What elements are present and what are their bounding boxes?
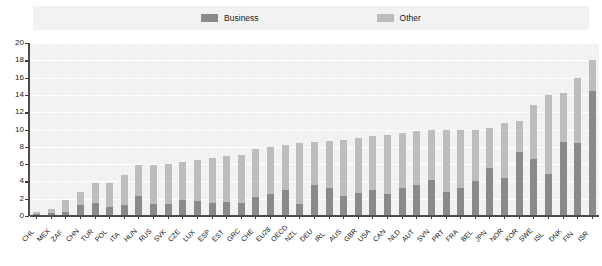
x-tick-mark [387,216,388,219]
bar-segment-business [472,181,479,216]
bar-segment-business [486,168,493,216]
y-tick-mark [25,60,29,61]
x-tick-mark [80,216,81,219]
bar-segment-business [179,200,186,216]
x-tick-mark [431,216,432,219]
bar-segment-other [135,165,142,196]
bar-column[interactable] [91,43,100,216]
bar-column[interactable] [500,43,509,216]
x-tick-mark [270,216,271,219]
bar-segment-business [589,91,596,216]
x-tick-mark [51,216,52,219]
bar-segment-business [399,188,406,216]
bar-column[interactable] [310,43,319,216]
bar-segment-business [530,159,537,216]
y-tick-mark [25,199,29,200]
x-tick-mark [460,216,461,219]
x-tick-mark [416,216,417,219]
x-tick-mark [138,216,139,219]
y-tick-mark [25,112,29,113]
bar-segment-business [252,197,259,216]
bar-segment-other [516,121,523,152]
plot-wrapper: 02468101214161820 [0,38,602,220]
bar-column[interactable] [120,43,129,216]
bar-segment-business [223,202,230,216]
bar-segment-other [77,192,84,205]
x-tick-mark [372,216,373,219]
bar-segment-other [326,141,333,189]
y-tick-label: 12 [15,108,24,116]
bar-segment-other [413,131,420,185]
bar-column[interactable] [251,43,260,216]
bar-column[interactable] [456,43,465,216]
bar-column[interactable] [47,43,56,216]
bar-column[interactable] [178,43,187,216]
legend-swatch-business-icon [201,14,218,22]
bar-column[interactable] [32,43,41,216]
y-axis-labels: 02468101214161820 [0,38,24,215]
bar-segment-other [472,130,479,181]
bar-column[interactable] [559,43,568,216]
bar-column[interactable] [573,43,582,216]
legend-item-business[interactable]: Business [201,14,259,23]
bar-column[interactable] [383,43,392,216]
y-tick-mark [25,181,29,182]
bar-segment-other [589,60,596,90]
bar-column[interactable] [76,43,85,216]
bar-column[interactable] [105,43,114,216]
bar-segment-other [311,142,318,185]
bar-segment-other [530,105,537,159]
bar-column[interactable] [281,43,290,216]
bar-column[interactable] [193,43,202,216]
bar-column[interactable] [485,43,494,216]
bar-segment-other [355,138,362,192]
bar-column[interactable] [442,43,451,216]
bar-column[interactable] [222,43,231,216]
bar-column[interactable] [237,43,246,216]
x-tick-mark [36,216,37,219]
y-tick-mark [25,78,29,79]
bar-segment-other [106,183,113,206]
bar-column[interactable] [295,43,304,216]
y-tick-label: 0 [20,212,24,220]
bar-column[interactable] [588,43,597,216]
bar-column[interactable] [544,43,553,216]
x-tick-mark [285,216,286,219]
bar-column[interactable] [354,43,363,216]
y-tick-label: 8 [20,143,24,151]
bar-column[interactable] [515,43,524,216]
x-tick-mark [548,216,549,219]
bar-column[interactable] [266,43,275,216]
legend-item-other[interactable]: Other [377,14,421,23]
bar-column[interactable] [471,43,480,216]
bar-segment-business [501,178,508,216]
bar-segment-other [282,145,289,190]
bar-column[interactable] [134,43,143,216]
x-label-cell: ISR [588,216,597,266]
bar-column[interactable] [529,43,538,216]
x-tick-label: CHL [20,228,35,243]
bar-column[interactable] [164,43,173,216]
x-axis-labels: CHLMEXZAFCHNTURPOLITAHUNRUSSVKCZELUXESPE… [30,216,599,266]
bar-segment-other [179,162,186,199]
chart-legend: Business Other [33,6,589,30]
bar-column[interactable] [208,43,217,216]
bar-segment-business [369,190,376,216]
bar-column[interactable] [339,43,348,216]
bar-column[interactable] [427,43,436,216]
bar-column[interactable] [325,43,334,216]
bar-column[interactable] [368,43,377,216]
bar-column[interactable] [61,43,70,216]
y-tick-label: 2 [20,195,24,203]
y-tick-mark [25,95,29,96]
x-tick-mark [329,216,330,219]
bar-segment-other [296,143,303,204]
x-tick-mark [563,216,564,219]
chart-container: Business Other 02468101214161820 CHLMEXZ… [0,0,602,266]
bar-column[interactable] [398,43,407,216]
legend-label-other: Other [400,14,421,23]
bar-segment-other [486,128,493,168]
bar-column[interactable] [412,43,421,216]
bar-segment-business [267,194,274,216]
bar-column[interactable] [149,43,158,216]
